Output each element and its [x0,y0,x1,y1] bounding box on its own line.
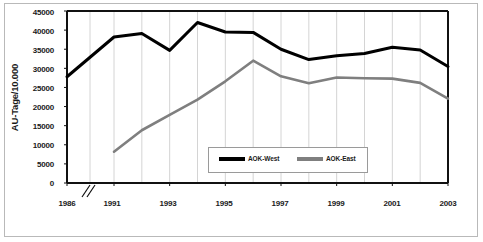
data-series-layer [67,22,448,151]
series-line-aok-west [67,22,448,76]
legend-label-aok-east: AOK-East [326,155,356,162]
legend-entry-aok-west: AOK-West [219,155,279,162]
legend-label-aok-west: AOK-West [248,155,279,162]
axis-break-icon [82,185,95,197]
legend-swatch-aok-east [297,157,323,161]
plot-area [0,0,483,242]
chart-legend: AOK-West AOK-East [208,147,368,173]
chart-figure: AU-Tage/10.000 45000 40000 35000 30000 2… [0,0,483,242]
legend-swatch-aok-west [219,157,245,161]
legend-entry-aok-east: AOK-East [297,155,356,162]
